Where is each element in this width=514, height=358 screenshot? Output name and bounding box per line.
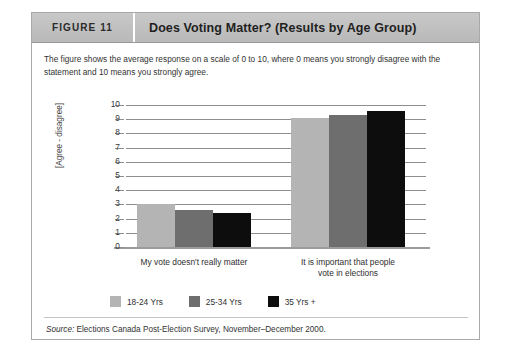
y-axis-tick-label: 4: [100, 184, 120, 194]
y-axis-tick-label: 3: [100, 198, 120, 208]
legend-swatch: [189, 296, 200, 307]
chart-legend: 18-24 Yrs25-34 Yrs35 Yrs +: [110, 296, 316, 307]
y-axis-tick-label: 1: [100, 227, 120, 237]
legend-item: 18-24 Yrs: [110, 296, 163, 307]
y-axis-tick-label: 9: [100, 113, 120, 123]
x-axis-category-label: My vote doesn't really matter: [104, 257, 284, 268]
y-axis-title: [Agree - disagree]: [55, 71, 64, 201]
bar: [137, 204, 175, 247]
bar: [175, 210, 213, 247]
bar: [213, 213, 251, 247]
y-axis-tick-label: 6: [100, 156, 120, 166]
bar: [291, 118, 329, 247]
y-axis-tick-label: 5: [100, 170, 120, 180]
y-axis-tick-label: 7: [100, 142, 120, 152]
legend-swatch: [110, 296, 121, 307]
legend-label: 18-24 Yrs: [127, 297, 163, 307]
y-axis-tick-label: 0: [100, 241, 120, 251]
source-line: Source: Elections Canada Post-Election S…: [46, 325, 326, 334]
plot-area: 012345678910My vote doesn't really matte…: [126, 105, 426, 247]
x-axis-baseline: [114, 247, 430, 249]
gridline: [126, 105, 426, 106]
y-axis-tick-label: 10: [100, 99, 120, 109]
bar: [367, 111, 405, 247]
source-divider: [44, 317, 468, 318]
bar: [329, 115, 367, 247]
legend-item: 25-34 Yrs: [189, 296, 242, 307]
legend-label: 35 Yrs +: [285, 297, 316, 307]
source-text: Elections Canada Post-Election Survey, N…: [74, 325, 326, 334]
legend-swatch: [268, 296, 279, 307]
y-axis-tick-label: 8: [100, 127, 120, 137]
y-axis-tick-label: 2: [100, 213, 120, 223]
legend-label: 25-34 Yrs: [206, 297, 242, 307]
figure-frame: FIGURE 11 Does Voting Matter? (Results b…: [31, 12, 480, 340]
x-axis-category-label: It is important that peoplevote in elect…: [258, 257, 438, 280]
legend-item: 35 Yrs +: [268, 296, 316, 307]
source-label: Source:: [46, 325, 74, 334]
bar-chart: [Agree - disagree] 012345678910My vote d…: [32, 13, 479, 339]
